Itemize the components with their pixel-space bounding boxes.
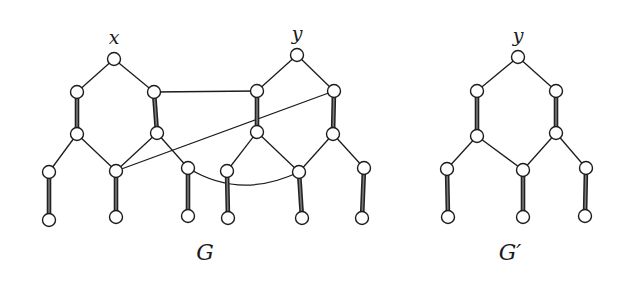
vertex-G-a1: [71, 86, 84, 99]
vertex-label-y-prime-graph: y: [512, 24, 524, 46]
edge: [116, 133, 157, 171]
labels: x y y G G′: [109, 22, 524, 265]
edge: [77, 134, 116, 171]
vertex-G-f1: [251, 85, 264, 98]
vertex-G-i1: [293, 166, 306, 179]
edge: [154, 91, 257, 92]
edge: [77, 59, 114, 92]
vertex-G_prime-c1: [441, 163, 454, 176]
vertex-G-g2: [327, 128, 340, 141]
vertex-G-i2: [296, 212, 309, 225]
vertex-G-j1: [358, 162, 371, 175]
curved-edges: [188, 168, 299, 185]
vertex-G-j2: [356, 212, 369, 225]
vertex-G-f2: [251, 126, 264, 139]
vertex-G-d2: [110, 211, 123, 224]
vertex-G_prime-e1: [580, 162, 593, 175]
edge: [477, 57, 518, 91]
graph-label-g: G: [196, 240, 214, 265]
vertex-label-x: x: [109, 26, 120, 48]
vertex-G_prime-a1: [471, 85, 484, 98]
vertex-G_prime-b1: [550, 85, 563, 98]
vertex-G_prime-d1: [517, 164, 530, 177]
vertex-G_prime-y: [512, 51, 525, 64]
edge: [257, 132, 299, 172]
vertex-G-e1: [182, 162, 195, 175]
graph-figure: x y y G G′: [0, 0, 626, 281]
vertex-G-e2: [182, 210, 195, 223]
thin-edges: [49, 55, 586, 172]
vertex-G_prime-a2: [471, 130, 484, 143]
edge: [299, 134, 333, 172]
vertex-G_prime-e2: [579, 210, 592, 223]
vertex-G-b2: [151, 127, 164, 140]
vertex-G-d1: [110, 165, 123, 178]
vertex-G-c2: [43, 214, 56, 227]
edge: [297, 55, 334, 91]
curved-edge: [188, 168, 299, 185]
edge: [114, 59, 154, 92]
edge: [523, 133, 556, 170]
vertex-G-y: [291, 49, 304, 62]
matching-edge-fill: [585, 168, 586, 216]
matching-edge-fill: [447, 169, 448, 217]
edge: [116, 91, 334, 171]
thick-edges: [49, 91, 586, 220]
vertex-G-b1: [148, 86, 161, 99]
vertex-G_prime-c2: [442, 211, 455, 224]
edge: [227, 132, 257, 171]
edge: [477, 136, 523, 170]
vertex-G-h2: [222, 212, 235, 225]
edge: [518, 57, 556, 91]
vertex-G-c1: [43, 166, 56, 179]
vertex-label-y: y: [291, 22, 303, 44]
vertex-G-a2: [71, 128, 84, 141]
vertex-G-h1: [221, 165, 234, 178]
vertex-G-g1: [328, 85, 341, 98]
vertex-G-x: [108, 53, 121, 66]
edge: [257, 55, 297, 91]
graph-label-g-prime: G′: [499, 240, 522, 265]
vertex-G_prime-b2: [550, 127, 563, 140]
vertex-G_prime-d2: [517, 211, 530, 224]
